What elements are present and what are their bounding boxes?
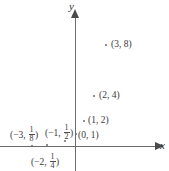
- label-close-paren: ): [35, 130, 38, 140]
- data-point-marker: [46, 144, 48, 146]
- label-open-paren: (−1,: [45, 128, 63, 138]
- label-open-paren: (−3,: [10, 130, 28, 140]
- label-close-paren: ): [56, 157, 59, 167]
- fraction-one-half: 12: [64, 124, 70, 141]
- y-axis-line: [75, 18, 76, 171]
- coordinate-plane-figure: x y (3, 8) (2, 4) (1, 2) (0, 1) (−1, 12)…: [0, 0, 169, 171]
- point-label-neg3-eighth: (−3, 18): [10, 126, 38, 143]
- point-label-neg1-half: (−1, 12): [45, 124, 73, 141]
- fraction-numerator: 1: [29, 126, 35, 134]
- point-label-0-1: (0, 1): [78, 131, 99, 141]
- label-close-paren: ): [70, 128, 73, 138]
- data-point-marker: [83, 120, 85, 122]
- fraction-numerator: 1: [64, 124, 70, 132]
- point-label-neg2-quarter: (−2, 14): [31, 153, 59, 170]
- data-point-marker: [31, 145, 33, 147]
- label-open-paren: (−2,: [31, 157, 49, 167]
- fraction-denominator: 2: [64, 132, 70, 141]
- x-axis-line: [0, 146, 157, 147]
- fraction-numerator: 1: [50, 153, 56, 161]
- data-point-marker: [105, 44, 107, 46]
- fraction-one-quarter: 14: [50, 153, 56, 170]
- fraction-one-eighth: 18: [29, 126, 35, 143]
- data-point-marker: [75, 133, 77, 135]
- x-axis-label: x: [160, 140, 165, 151]
- fraction-denominator: 4: [50, 161, 56, 170]
- data-point-marker: [93, 95, 95, 97]
- point-label-3-8: (3, 8): [111, 40, 132, 50]
- point-label-1-2: (1, 2): [88, 116, 109, 126]
- fraction-denominator: 8: [29, 134, 35, 143]
- y-axis-label: y: [69, 1, 74, 12]
- point-label-2-4: (2, 4): [99, 91, 120, 101]
